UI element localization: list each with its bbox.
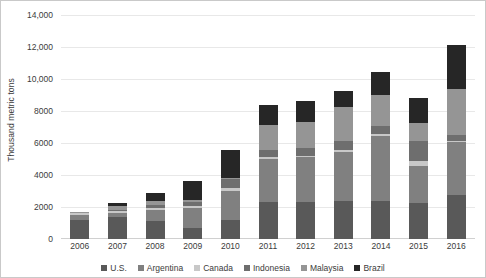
- legend-label: Indonesia: [253, 263, 290, 273]
- bar-segment: [183, 228, 202, 239]
- legend-label: Brazil: [363, 263, 384, 273]
- y-tick-label: 0: [48, 234, 53, 244]
- bar-segment: [371, 201, 390, 239]
- bar-segment: [259, 105, 278, 126]
- bar-segment: [296, 157, 315, 202]
- bar-segment: [259, 150, 278, 157]
- chart-container: Thousand metric tons 0200040006000800010…: [0, 0, 486, 278]
- bar-stack: [70, 212, 89, 239]
- x-tick-label: 2013: [334, 241, 353, 251]
- bar-segment: [296, 202, 315, 239]
- bar-stack: [146, 193, 165, 239]
- bar-segment: [371, 95, 390, 126]
- bar-segment: [221, 191, 240, 220]
- chart-legend: U.S.ArgentinaCanadaIndonesiaMalaysiaBraz…: [1, 263, 485, 273]
- bar-segment: [371, 72, 390, 95]
- bar-segment: [221, 150, 240, 178]
- legend-item[interactable]: Malaysia: [301, 263, 344, 273]
- x-tick-label: 2010: [221, 241, 240, 251]
- x-tick-label: 2006: [70, 241, 89, 251]
- bar-segment: [447, 45, 466, 88]
- x-tick-label: 2014: [371, 241, 390, 251]
- legend-item[interactable]: Argentina: [138, 263, 183, 273]
- y-tick-label: 6000: [34, 138, 53, 148]
- bar-stack: [259, 105, 278, 239]
- bar-segment: [409, 166, 428, 203]
- bar-segment: [146, 210, 165, 221]
- legend-swatch-canada: [194, 265, 200, 271]
- bar-segment: [409, 203, 428, 239]
- x-tick-label: 2011: [259, 241, 277, 251]
- bar-stack: [371, 71, 390, 239]
- legend-item[interactable]: Brazil: [354, 263, 384, 273]
- y-tick-label: 2000: [34, 202, 53, 212]
- x-axis-ticks: 2006200720082009201020112012201320142015…: [61, 241, 475, 255]
- bar-segment: [334, 152, 353, 202]
- bar-stack: [183, 181, 202, 239]
- legend-label: Malaysia: [310, 263, 344, 273]
- y-tick-label: 10,000: [27, 74, 53, 84]
- bar-segment: [334, 91, 353, 107]
- gridline: [61, 15, 475, 16]
- bar-segment: [334, 107, 353, 141]
- legend-swatch-indonesia: [244, 265, 250, 271]
- x-tick-label: 2016: [447, 241, 466, 251]
- bar-segment: [296, 101, 315, 123]
- bar-segment: [146, 193, 165, 201]
- bar-segment: [409, 141, 428, 162]
- bar-segment: [108, 217, 127, 239]
- bar-segment: [183, 208, 202, 228]
- bar-segment: [334, 141, 353, 151]
- bar-segment: [221, 220, 240, 239]
- bar-segment: [447, 142, 466, 195]
- bar-segment: [70, 220, 89, 239]
- bar-segment: [259, 125, 278, 150]
- legend-item[interactable]: Canada: [194, 263, 233, 273]
- y-tick-label: 14,000: [27, 10, 53, 20]
- x-tick-label: 2012: [296, 241, 315, 251]
- bar-segment: [296, 122, 315, 148]
- bar-segment: [183, 181, 202, 199]
- legend-item[interactable]: U.S.: [101, 263, 127, 273]
- bar-segment: [334, 201, 353, 239]
- plot-area: [61, 15, 475, 239]
- bar-segment: [259, 202, 278, 239]
- x-tick-label: 2007: [108, 241, 127, 251]
- bar-stack: [447, 45, 466, 239]
- bar-segment: [409, 98, 428, 123]
- x-tick-label: 2009: [183, 241, 202, 251]
- x-tick-label: 2015: [409, 241, 428, 251]
- bar-segment: [371, 136, 390, 201]
- bar-segment: [371, 126, 390, 134]
- legend-label: U.S.: [110, 263, 127, 273]
- legend-label: Canada: [203, 263, 233, 273]
- y-tick-label: 12,000: [27, 42, 53, 52]
- bar-segment: [146, 221, 165, 239]
- legend-swatch-argentina: [138, 265, 144, 271]
- bar-segment: [409, 123, 428, 141]
- legend-item[interactable]: Indonesia: [244, 263, 290, 273]
- legend-swatch-malaysia: [301, 265, 307, 271]
- y-axis-ticks: 0200040006000800010,00012,00014,000: [1, 1, 57, 278]
- legend-swatch-brazil: [354, 265, 360, 271]
- legend-label: Argentina: [147, 263, 183, 273]
- bar-segment: [447, 89, 466, 135]
- bar-segment: [259, 159, 278, 202]
- bar-stack: [221, 150, 240, 239]
- gridline: [61, 47, 475, 48]
- y-tick-label: 4000: [34, 170, 53, 180]
- bar-stack: [296, 101, 315, 239]
- bar-stack: [334, 91, 353, 239]
- bar-stack: [409, 98, 428, 239]
- bar-segment: [221, 179, 240, 188]
- y-tick-label: 8000: [34, 106, 53, 116]
- legend-swatch-us: [101, 265, 107, 271]
- gridline: [61, 79, 475, 80]
- bar-segment: [296, 148, 315, 156]
- bar-segment: [447, 195, 466, 239]
- x-tick-label: 2008: [146, 241, 165, 251]
- bar-stack: [108, 203, 127, 239]
